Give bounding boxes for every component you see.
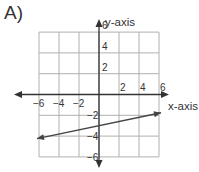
x-tick-label: −6 [33,98,45,109]
x-axis-left-arrow-icon [14,91,22,98]
line-arrow-left-icon [37,134,44,140]
x-tick-label: −2 [73,98,85,109]
y-tick-label: 2 [102,62,108,73]
x-tick-label: −4 [53,98,65,109]
coordinate-plane: −6−4−2246642−2−4−6 x-axis y-axis [0,0,199,172]
x-tick-label: 2 [120,82,126,93]
y-axis-label: y-axis [105,16,135,28]
line-arrow-right-icon [154,111,161,117]
y-tick-label: −6 [87,152,99,163]
y-tick-label: −4 [87,131,99,142]
x-axis-label: x-axis [168,100,198,112]
x-tick-label: 6 [160,82,166,93]
y-tick-label: −2 [87,110,99,121]
axes [14,19,169,168]
y-tick-label: 4 [102,41,108,52]
x-tick-label: 4 [140,82,146,93]
